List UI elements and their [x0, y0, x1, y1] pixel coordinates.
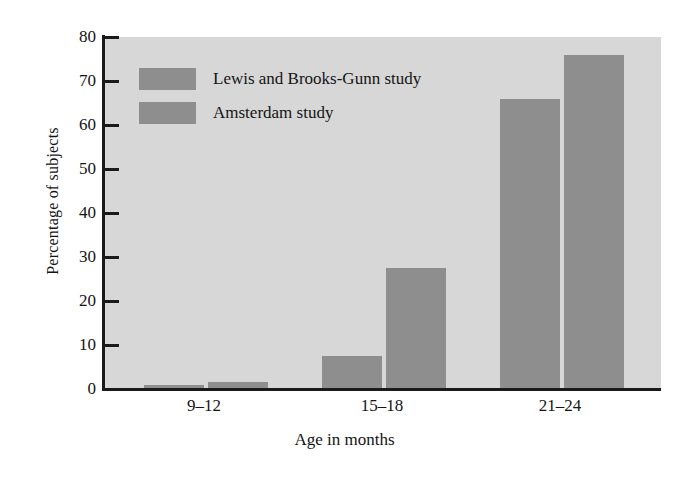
y-tick-label-10: 10: [52, 336, 96, 353]
legend-item-lewis: Lewis and Brooks-Gunn study: [139, 62, 439, 96]
x-tick-label-9-12: 9–12: [129, 396, 279, 416]
bar-lewis-21-24: [500, 99, 560, 389]
y-tick-label-40: 40: [52, 204, 96, 221]
y-tick-label-60: 60: [52, 116, 96, 133]
legend: Lewis and Brooks-Gunn study Amsterdam st…: [139, 62, 439, 130]
x-tick-label-21-24: 21–24: [485, 396, 635, 416]
y-tick-mark-50: [105, 168, 119, 171]
legend-swatch-amsterdam: [139, 102, 196, 124]
legend-label-amsterdam: Amsterdam study: [213, 103, 333, 123]
bar-amsterdam-15-18: [386, 268, 446, 389]
y-tick-mark-20: [105, 300, 119, 303]
y-tick-label-70: 70: [52, 72, 96, 89]
y-tick-mark-40: [105, 212, 119, 215]
y-tick-label-30: 30: [52, 248, 96, 265]
y-tick-label-20: 20: [52, 292, 96, 309]
legend-item-amsterdam: Amsterdam study: [139, 96, 439, 130]
y-tick-mark-30: [105, 256, 119, 259]
y-tick-label-0: 0: [52, 380, 96, 397]
legend-swatch-lewis: [139, 68, 196, 90]
y-tick-mark-80: [105, 36, 119, 39]
bar-lewis-15-18: [322, 356, 382, 389]
y-tick-label-50: 50: [52, 160, 96, 177]
plot-area: Lewis and Brooks-Gunn study Amsterdam st…: [104, 37, 661, 389]
x-axis-title: Age in months: [0, 430, 689, 450]
bar-chart-figure: Percentage of subjects Lewis and Brooks-…: [0, 0, 689, 477]
y-tick-mark-70: [105, 80, 119, 83]
y-tick-label-80: 80: [52, 28, 96, 45]
bar-amsterdam-21-24: [564, 55, 624, 389]
x-axis-line: [102, 388, 661, 391]
x-tick-label-15-18: 15–18: [307, 396, 457, 416]
legend-label-lewis: Lewis and Brooks-Gunn study: [213, 69, 421, 89]
y-tick-mark-60: [105, 124, 119, 127]
y-tick-mark-10: [105, 344, 119, 347]
y-tick-mark-0: [105, 388, 119, 391]
